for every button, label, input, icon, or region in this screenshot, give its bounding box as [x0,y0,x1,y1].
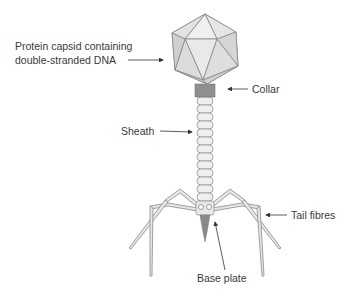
capsid-label-line2: double-stranded DNA [15,54,116,67]
capsid-label-line1: Protein capsid containing [15,40,132,53]
collar [195,84,215,97]
tail-fibres-label: Tail fibres [291,209,335,222]
sheath-label: Sheath [121,125,154,138]
sheath [197,97,213,201]
base-plate-label: Base plate [197,272,247,285]
base-plate [196,201,214,242]
capsid [172,14,238,84]
collar-label: Collar [252,83,279,96]
